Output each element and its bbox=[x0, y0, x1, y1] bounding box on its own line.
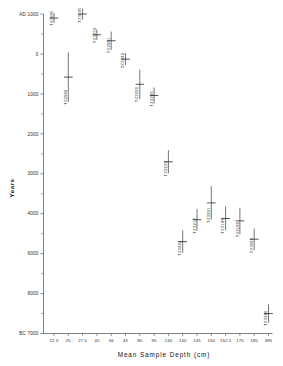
data-point-label: TX3246 bbox=[149, 91, 154, 107]
data-point-label: TX3220 bbox=[134, 86, 139, 102]
x-tick-label: 80 bbox=[137, 338, 142, 343]
data-point: TX3246 bbox=[149, 87, 159, 106]
x-tick-label: 130 bbox=[165, 338, 173, 343]
radiocarbon-depth-chart: AD 10000100020003000400060008000BC 70002… bbox=[0, 0, 283, 366]
data-point: TX3224 bbox=[177, 230, 187, 256]
data-point: TX2984 bbox=[63, 52, 73, 105]
data-point: TX3045 bbox=[77, 7, 87, 23]
data-point-label: TX3286 bbox=[263, 310, 268, 326]
y-tick-label: 0 bbox=[36, 52, 39, 57]
data-point-label: TX3089 bbox=[249, 237, 254, 253]
data-point-label: TX3180 bbox=[235, 221, 240, 237]
data-point: TX3188 bbox=[220, 206, 230, 233]
data-point: TX3232 bbox=[163, 150, 173, 176]
y-tick-label: BC 7000 bbox=[19, 331, 39, 336]
x-tick-label: 25 bbox=[66, 338, 71, 343]
x-tick-label: 385 bbox=[265, 338, 273, 343]
data-point-label: TX2981 bbox=[106, 37, 111, 53]
data-series: TX3085TX2984TX3045TX3059TX2981TX3242TX32… bbox=[49, 7, 273, 326]
y-tick-label: 6000 bbox=[27, 251, 38, 256]
data-point-label: TX3219 bbox=[192, 218, 197, 234]
data-point: TX3180 bbox=[235, 208, 245, 238]
x-tick-label: 46 bbox=[109, 338, 114, 343]
data-point: TX3219 bbox=[192, 209, 202, 234]
x-tick-label: 40 bbox=[94, 338, 99, 343]
data-point: TX3059 bbox=[92, 27, 102, 43]
data-point: TX3286 bbox=[263, 304, 273, 326]
x-axis-title: Mean Sample Depth (cm) bbox=[118, 351, 211, 359]
x-tick-label: 152.5 bbox=[220, 338, 232, 343]
data-point: TX3089 bbox=[249, 228, 259, 253]
data-point-label: TX3085 bbox=[49, 10, 54, 26]
y-tick-label: 1000 bbox=[27, 92, 38, 97]
data-point: TX3085 bbox=[49, 10, 59, 26]
chart-canvas: AD 10000100020003000400060008000BC 70002… bbox=[0, 0, 283, 366]
data-point-label: TX3188 bbox=[220, 218, 225, 234]
x-tick-label: 45 bbox=[123, 338, 128, 343]
x-tick-label: 175 bbox=[236, 338, 244, 343]
x-tick-label: 150 bbox=[208, 338, 216, 343]
data-point: TX2981 bbox=[106, 32, 116, 54]
y-tick-label: 8000 bbox=[27, 291, 38, 296]
x-tick-label: 22.5 bbox=[50, 338, 59, 343]
x-tick-label: 95 bbox=[152, 338, 157, 343]
data-point: TX3220 bbox=[134, 70, 144, 103]
data-point-label: TX3242 bbox=[120, 52, 125, 68]
y-tick-label: 2000 bbox=[27, 132, 38, 137]
x-tick-label: 180 bbox=[250, 338, 258, 343]
y-tick-label: AD 1000 bbox=[19, 12, 39, 17]
data-point-label: TX3045 bbox=[77, 7, 82, 23]
data-point: TX3201 bbox=[206, 186, 216, 223]
data-point-label: TX3059 bbox=[92, 27, 97, 43]
y-tick-label: 3000 bbox=[27, 171, 38, 176]
data-point-label: TX3232 bbox=[163, 161, 168, 177]
y-axis-title: Years bbox=[8, 178, 15, 197]
data-point: TX3242 bbox=[120, 52, 130, 68]
data-point-label: TX3224 bbox=[177, 240, 182, 256]
x-tick-label: 140 bbox=[179, 338, 187, 343]
y-tick-label: 4000 bbox=[27, 211, 38, 216]
x-tick-label: 145 bbox=[193, 338, 201, 343]
data-point-label: TX2984 bbox=[63, 89, 68, 105]
data-point-label: TX3201 bbox=[206, 207, 211, 223]
x-tick-label: 27.5 bbox=[78, 338, 87, 343]
